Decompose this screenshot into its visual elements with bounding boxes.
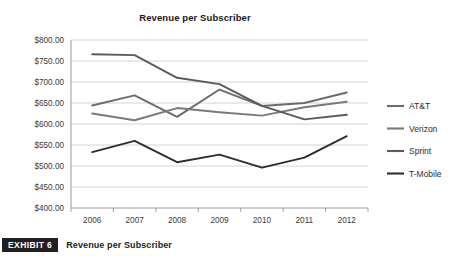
legend-label-sprint: Sprint xyxy=(409,146,432,156)
y-axis-label: $650.00 xyxy=(34,99,64,108)
legend-label-verizon: Verizon xyxy=(409,124,438,134)
exhibit-bar: EXHIBIT 6 Revenue per Subscriber xyxy=(0,234,473,256)
chart-plot-area: $800.00$750.00$700.00$650.00$600.00$550.… xyxy=(0,0,473,231)
x-axis-label: 2006 xyxy=(83,216,102,225)
x-axis-label: 2009 xyxy=(210,216,229,225)
x-axis-label: 2012 xyxy=(338,216,357,225)
chart-legend: AT&TVerizonSprintT-Mobile xyxy=(387,101,442,179)
x-axis-ticks xyxy=(71,208,368,212)
x-axis-labels: 2006200720082009201020112012 xyxy=(83,216,356,225)
y-axis-labels: $800.00$750.00$700.00$650.00$600.00$550.… xyxy=(34,36,64,213)
series-line-t-mobile xyxy=(92,136,347,168)
x-axis-label: 2007 xyxy=(126,216,145,225)
legend-label-t-mobile: T-Mobile xyxy=(409,169,442,179)
y-axis-label: $400.00 xyxy=(34,204,64,213)
x-axis-label: 2011 xyxy=(296,216,314,225)
exhibit-caption: Revenue per Subscriber xyxy=(66,240,172,250)
x-axis-label: 2010 xyxy=(253,216,272,225)
y-axis-label: $800.00 xyxy=(34,36,64,45)
x-axis-label: 2008 xyxy=(168,216,187,225)
exhibit-badge: EXHIBIT 6 xyxy=(2,238,58,252)
line-chart-svg: $800.00$750.00$700.00$650.00$600.00$550.… xyxy=(0,0,473,231)
y-axis-label: $600.00 xyxy=(34,120,64,129)
y-axis-label: $700.00 xyxy=(34,78,64,87)
y-axis-label: $500.00 xyxy=(34,162,64,171)
legend-label-at-t: AT&T xyxy=(409,101,430,111)
gridlines xyxy=(71,40,368,208)
chart-card: Revenue per Subscriber $800.00$750.00$70… xyxy=(0,0,473,231)
y-axis-label: $750.00 xyxy=(34,57,64,66)
series-line-verizon xyxy=(92,102,347,120)
y-axis-label: $550.00 xyxy=(34,141,64,150)
series-line-sprint xyxy=(92,54,347,119)
data-series-lines xyxy=(92,54,347,167)
y-axis-label: $450.00 xyxy=(34,183,64,192)
